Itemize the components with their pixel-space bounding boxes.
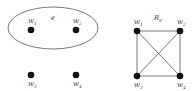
node-label-w1: w1	[134, 18, 143, 27]
node-label-w1: w1	[28, 17, 37, 26]
node-label-w2: w2	[177, 18, 186, 27]
node-label-w2: w2	[73, 17, 82, 26]
node-w3	[134, 73, 141, 80]
hypergraph-diagram: e w1 w2 w3 w4 Re w1 w2 w3 w4	[0, 0, 194, 91]
clique-edges	[137, 31, 180, 76]
node-w2	[73, 27, 80, 34]
node-w3	[28, 72, 35, 79]
hyperedge-label: e	[51, 14, 55, 22]
right-clique-graph: Re w1 w2 w3 w4	[134, 14, 186, 90]
node-w1	[134, 28, 141, 35]
node-label-w4: w4	[177, 81, 186, 90]
node-label-w3: w3	[134, 81, 143, 90]
left-hypergraph: e w1 w2 w3 w4	[8, 7, 98, 89]
node-w2	[177, 28, 184, 35]
node-w1	[28, 27, 35, 34]
node-label-w4: w4	[73, 80, 82, 89]
node-w4	[73, 72, 80, 79]
graph-title: Re	[153, 14, 162, 23]
node-w4	[177, 73, 184, 80]
node-label-w3: w3	[28, 80, 37, 89]
